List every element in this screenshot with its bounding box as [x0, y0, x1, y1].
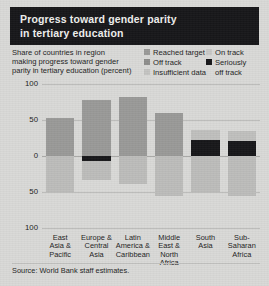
bar-segment	[191, 130, 219, 140]
legend-item-seriously-off-track-line2: off track	[206, 68, 269, 77]
bar-segment	[119, 156, 147, 184]
x-axis-labels: EastAsia &PacificEurope &CentralAsiaLati…	[42, 234, 260, 266]
x-axis-label-line: Asia	[78, 251, 114, 259]
bar-segment	[155, 156, 183, 196]
legend-swatch-icon	[206, 59, 212, 65]
bar-segment	[82, 161, 110, 180]
plot-area: 10050050100	[12, 80, 260, 232]
y-tick-label: 50	[12, 116, 38, 124]
x-axis-label: SouthAsia	[187, 234, 223, 251]
legend-item-insufficient-data: Insufficient data	[144, 68, 206, 77]
chart-title-line1: Progress toward gender parity	[20, 13, 177, 25]
bar-column	[151, 80, 187, 232]
bar-segment	[46, 118, 74, 156]
legend-swatch-icon	[144, 49, 150, 55]
chart-subtitle-line3: parity in tertiary education (percent)	[12, 66, 140, 75]
legend-item-off-track: Off track	[144, 58, 206, 67]
chart-subtitle-line2: making progress toward gender	[12, 57, 140, 66]
y-tick-label: 100	[12, 80, 38, 88]
bar-segment	[155, 113, 183, 156]
x-axis-label-line: Caribbean	[115, 251, 151, 259]
x-axis-label-line: Pacific	[42, 251, 78, 259]
y-tick-label: 100	[12, 224, 38, 232]
legend-swatch-icon	[206, 49, 212, 55]
legend-label: Insufficient data	[153, 68, 206, 77]
legend-swatch-icon	[144, 59, 150, 65]
bar-segment	[82, 100, 110, 156]
legend-label: Reached target	[153, 48, 205, 57]
legend-label-continued: off track	[215, 68, 269, 77]
bar-segment	[228, 141, 256, 156]
y-tick-label: 50	[12, 188, 38, 196]
legend-label: Off track	[153, 58, 182, 67]
legend-item-reached-target: Reached target	[144, 48, 206, 57]
x-axis-label-line: Asia	[187, 242, 223, 250]
legend-swatch-icon	[144, 69, 150, 75]
source-divider	[12, 263, 260, 264]
x-axis-label-line: Africa	[224, 251, 260, 259]
y-tick-label: 0	[12, 152, 38, 160]
bar-column	[224, 80, 260, 232]
bar-segment	[228, 156, 256, 196]
legend-column-left: Reached target Off track Insufficient da…	[144, 48, 206, 78]
x-axis-label: Sub-SaharanAfrica	[224, 234, 260, 259]
chart-subtitle: Share of countries in region making prog…	[12, 48, 140, 76]
chart-title-banner: Progress toward gender parity in tertiar…	[10, 7, 259, 45]
bar-segment	[119, 97, 147, 156]
bar-column	[78, 80, 114, 232]
legend-item-seriously-off-track: Seriously	[206, 58, 269, 67]
x-axis-label: EastAsia &Pacific	[42, 234, 78, 259]
bar-column	[42, 80, 78, 232]
legend-column-right: On track Seriously off track	[206, 48, 269, 78]
x-axis-label: LatinAmerica &Caribbean	[115, 234, 151, 259]
bar-segment	[191, 156, 219, 192]
legend-item-on-track: On track	[206, 48, 269, 57]
x-axis-label: Europe &CentralAsia	[78, 234, 114, 259]
bar-column	[187, 80, 223, 232]
bar-segment	[228, 131, 256, 141]
legend-label: On track	[215, 48, 244, 57]
legend-label: Seriously	[215, 58, 246, 67]
bar-group	[42, 80, 260, 232]
chart-title-line2: in tertiary education	[20, 27, 124, 39]
chart-subtitle-line1: Share of countries in region	[12, 48, 140, 57]
bar-segment	[46, 156, 74, 192]
chart-figure: Progress toward gender parity in tertiar…	[0, 0, 269, 286]
bar-column	[115, 80, 151, 232]
bar-segment	[191, 140, 219, 156]
source-note: Source: World Bank staff estimates.	[12, 266, 129, 275]
